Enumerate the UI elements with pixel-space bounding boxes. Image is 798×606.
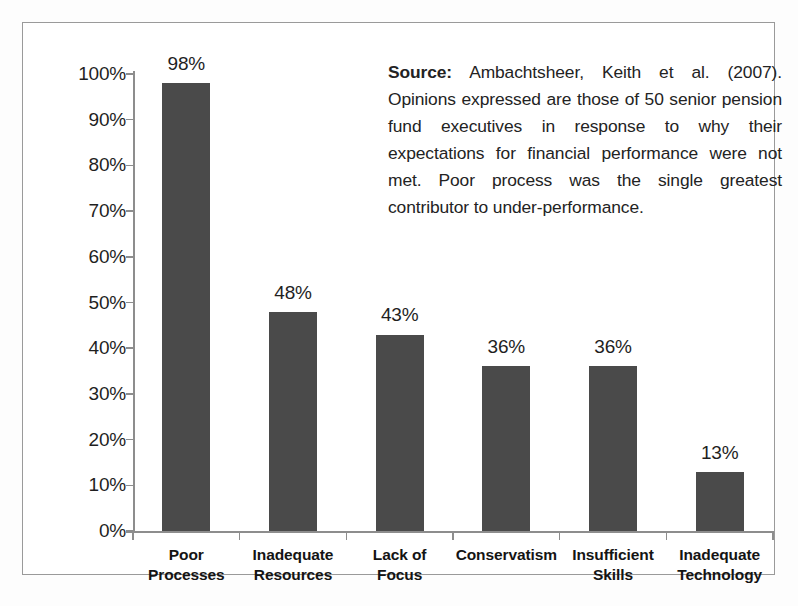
source-note-label: Source:: [388, 62, 452, 82]
bar-value-label: 48%: [253, 283, 333, 302]
x-axis-tick: [452, 531, 454, 540]
x-axis-tick: [239, 531, 241, 540]
category-label-line: Processes: [135, 565, 238, 585]
y-axis-tick-label: 0%: [52, 521, 126, 540]
y-axis-tick-label-row: 100%: [23, 64, 126, 83]
bar-value-label: 98%: [146, 54, 226, 73]
source-note: Source: Ambachtsheer, Keith et al. (2007…: [388, 59, 782, 221]
y-axis-tick-label: 20%: [52, 430, 126, 449]
y-axis-tick-label: 100%: [52, 64, 126, 83]
y-axis-tick-label: 90%: [52, 110, 126, 129]
bar: [162, 83, 210, 531]
y-axis-tick-label-row: 20%: [23, 430, 126, 449]
bar: [376, 335, 424, 532]
y-axis-tick-label-row: 40%: [23, 338, 126, 357]
x-axis-line: [126, 531, 774, 533]
category-label-line: Conservatism: [455, 545, 558, 565]
category-label-line: Inadequate: [668, 545, 771, 565]
category-label: InsufficientSkills: [562, 545, 665, 585]
category-label-line: Poor: [135, 545, 238, 565]
bar-value-label: 43%: [360, 305, 440, 324]
category-label-line: Technology: [668, 565, 771, 585]
category-label-line: Inadequate: [242, 545, 345, 565]
category-label-line: Skills: [562, 565, 665, 585]
y-axis-tick-label-row: 70%: [23, 201, 126, 220]
x-axis-tick: [559, 531, 561, 540]
bar-value-label: 36%: [573, 337, 653, 356]
category-label: Lack of Focus: [348, 545, 451, 585]
category-label: Conservatism: [455, 545, 558, 565]
category-label: InadequateResources: [242, 545, 345, 585]
chart-frame: 100%90%80%70%60%50%40%30%20%10%0% 98%48%…: [22, 22, 775, 575]
source-note-text: Ambachtsheer, Keith et al. (2007). Opini…: [388, 62, 782, 217]
x-axis-tick: [772, 531, 774, 540]
category-label: PoorProcesses: [135, 545, 238, 585]
category-label-line: Insufficient: [562, 545, 665, 565]
x-axis-tick: [132, 531, 134, 540]
y-axis-tick-label-row: 90%: [23, 110, 126, 129]
bar-value-label: 13%: [680, 443, 760, 462]
y-axis-tick-label: 10%: [52, 475, 126, 494]
y-axis-tick-label-row: 0%: [23, 521, 126, 540]
y-axis-tick-label-row: 10%: [23, 475, 126, 494]
bar: [482, 366, 530, 531]
y-axis-tick-label: 70%: [52, 201, 126, 220]
bar: [589, 366, 637, 531]
bar: [696, 472, 744, 531]
category-label-line: Resources: [242, 565, 345, 585]
chart-page: 100%90%80%70%60%50%40%30%20%10%0% 98%48%…: [0, 0, 798, 606]
x-axis-tick: [666, 531, 668, 540]
y-axis-tick-label: 60%: [52, 247, 126, 266]
y-axis-tick-label: 80%: [52, 155, 126, 174]
y-axis-tick-label-row: 80%: [23, 155, 126, 174]
x-axis-tick: [346, 531, 348, 540]
y-axis-tick-label: 40%: [52, 338, 126, 357]
y-axis-tick-label-row: 60%: [23, 247, 126, 266]
y-axis-tick-label: 50%: [52, 293, 126, 312]
category-label-line: Lack of Focus: [348, 545, 451, 585]
y-axis-tick-label: 30%: [52, 384, 126, 403]
bar-value-label: 36%: [466, 337, 546, 356]
category-label: InadequateTechnology: [668, 545, 771, 585]
y-axis-tick-label-row: 30%: [23, 384, 126, 403]
bar: [269, 312, 317, 531]
y-axis-tick-label-row: 50%: [23, 293, 126, 312]
